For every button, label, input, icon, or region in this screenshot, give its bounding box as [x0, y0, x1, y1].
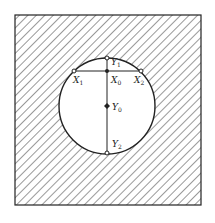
point-y1 — [105, 56, 109, 60]
diagram: Y1 X0 X1 X2 Y0 Y2 — [0, 0, 215, 223]
point-x2 — [139, 69, 143, 73]
point-y2 — [105, 151, 109, 155]
point-x1 — [72, 69, 76, 73]
point-x0 — [105, 69, 109, 73]
